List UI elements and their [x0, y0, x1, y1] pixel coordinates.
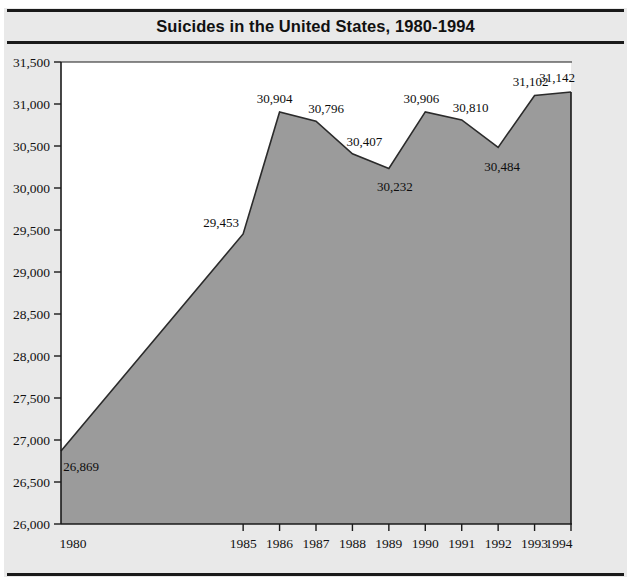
x-tick-label: 1993 — [521, 536, 548, 551]
data-point-label: 30,407 — [347, 134, 383, 149]
x-tick-label: 1989 — [375, 536, 402, 551]
figure-bottom-margin — [0, 577, 631, 585]
y-tick-label: 26,000 — [13, 517, 50, 532]
data-point-label: 30,904 — [257, 91, 293, 106]
data-point-label: 30,232 — [377, 179, 413, 194]
y-tick-label: 29,500 — [13, 223, 50, 238]
x-tick-label: 1987 — [303, 536, 330, 551]
data-point-label: 26,869 — [63, 459, 99, 474]
x-tick-label: 1990 — [412, 536, 439, 551]
y-tick-label: 31,000 — [13, 97, 50, 112]
x-tick-label: 1992 — [485, 536, 512, 551]
data-point-label: 30,906 — [403, 91, 439, 106]
area-chart-svg: 26,00026,50027,00027,50028,00028,50029,0… — [0, 44, 631, 576]
x-tick-label: 1991 — [448, 536, 475, 551]
y-tick-label: 27,000 — [13, 433, 50, 448]
data-point-label: 30,810 — [453, 100, 489, 115]
data-point-label: 30,484 — [484, 159, 520, 174]
y-tick-label: 30,000 — [13, 181, 50, 196]
y-tick-label: 29,000 — [13, 265, 50, 280]
data-point-label: 29,453 — [203, 215, 239, 230]
title-band: Suicides in the United States, 1980-1994 — [7, 9, 624, 44]
y-tick-label: 28,500 — [13, 307, 50, 322]
chart-figure: Suicides in the United States, 1980-1994… — [0, 0, 631, 585]
plot-area: 26,00026,50027,00027,50028,00028,50029,0… — [0, 44, 631, 576]
figure-bottom-rule — [7, 573, 624, 576]
y-tick-label: 28,000 — [13, 349, 50, 364]
x-tick-label: 1980 — [60, 536, 87, 551]
y-tick-label: 30,500 — [13, 139, 50, 154]
x-tick-label: 1985 — [230, 536, 257, 551]
x-tick-label: 1994 — [546, 536, 573, 551]
y-tick-label: 31,500 — [13, 55, 50, 70]
y-tick-label: 26,500 — [13, 475, 50, 490]
data-point-label: 31,142 — [539, 70, 575, 85]
data-point-label: 30,796 — [308, 101, 344, 116]
figure-top-margin — [0, 0, 631, 8]
y-tick-label: 27,500 — [13, 391, 50, 406]
page-title: Suicides in the United States, 1980-1994 — [156, 17, 475, 36]
x-tick-label: 1988 — [339, 536, 366, 551]
x-tick-label: 1986 — [266, 536, 293, 551]
